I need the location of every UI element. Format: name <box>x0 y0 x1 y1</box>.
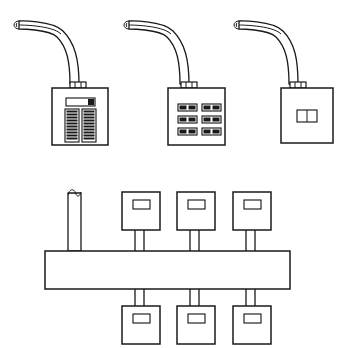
conduit-hub <box>290 82 306 88</box>
single-two-pole-switch[interactable] <box>297 110 317 122</box>
panel-enclosure-1[interactable] <box>52 88 108 145</box>
breaker-column-right[interactable] <box>82 109 96 142</box>
tap-box-bottom-2[interactable] <box>177 288 215 344</box>
gooseneck-conduit-icon <box>234 21 298 84</box>
tap-box-top-1[interactable] <box>122 192 160 252</box>
switch-r2c1[interactable] <box>178 116 197 123</box>
tap-box-top-2[interactable] <box>177 192 215 252</box>
diagram-root: Electrical service equipment line drawin… <box>0 0 345 348</box>
electrical-equipment-diagram <box>0 0 345 348</box>
busbar[interactable] <box>45 251 290 289</box>
switch-r1c1[interactable] <box>178 104 197 111</box>
conduit-hub <box>70 82 86 88</box>
switch-r2c2[interactable] <box>202 116 221 123</box>
tap-box-bottom-3[interactable] <box>233 288 271 344</box>
unit-load-center-panel <box>14 21 108 145</box>
unit-six-switch-panel <box>124 21 225 145</box>
main-breaker-switch[interactable] <box>66 98 95 106</box>
switch-r3c2[interactable] <box>202 128 221 135</box>
gooseneck-conduit-icon <box>124 21 189 84</box>
breaker-column-left[interactable] <box>65 109 79 142</box>
conduit-hub <box>181 82 197 88</box>
switch-r1c2[interactable] <box>202 104 221 111</box>
gooseneck-conduit-icon <box>14 21 79 84</box>
tap-box-top-3[interactable] <box>233 192 271 252</box>
tap-box-bottom-1[interactable] <box>122 288 160 344</box>
busway-assembly <box>45 190 290 344</box>
unit-single-switch-enclosure <box>234 21 333 143</box>
switch-r3c1[interactable] <box>178 128 197 135</box>
service-riser-weatherhead <box>68 190 81 251</box>
